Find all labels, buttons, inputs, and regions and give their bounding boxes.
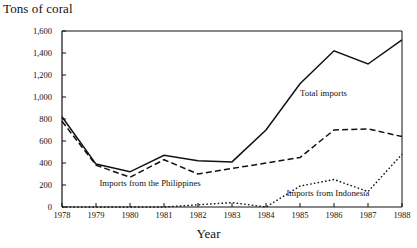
series-line-imports-from-the-philippines — [62, 121, 402, 177]
y-tick-label: 200 — [8, 180, 52, 190]
x-tick-label: 1988 — [382, 210, 417, 220]
y-tick-label: 400 — [8, 158, 52, 168]
y-tick-label: 1,400 — [8, 48, 52, 58]
series-line-total-imports — [62, 40, 402, 172]
series-annotation: Imports from the Philippines — [99, 178, 200, 188]
y-tick-label: 600 — [8, 136, 52, 146]
y-tick-label: 800 — [8, 114, 52, 124]
x-axis-title: Year — [0, 226, 417, 242]
y-tick-label: 1,200 — [8, 70, 52, 80]
y-tick-label: 1,600 — [8, 26, 52, 36]
coral-imports-chart: Tons of coral 02004006008001,0001,2001,4… — [0, 0, 417, 248]
series-annotation: Total imports — [300, 88, 347, 98]
y-tick-label: 1,000 — [8, 92, 52, 102]
series-annotation: Imports from Indonesia — [286, 188, 369, 198]
